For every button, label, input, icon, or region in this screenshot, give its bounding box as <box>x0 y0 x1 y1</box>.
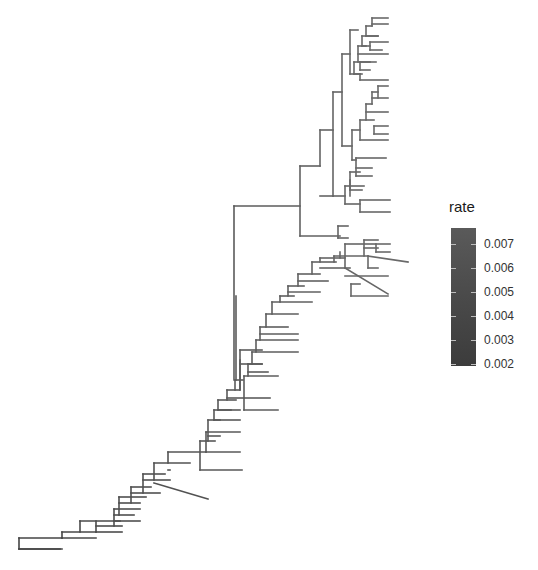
legend-tick-mark <box>451 340 456 341</box>
legend-tick-label: 0.005 <box>484 286 514 298</box>
legend-tick-mark <box>451 316 456 317</box>
legend-tick-mark <box>451 268 456 269</box>
legend-colorbar <box>451 228 476 366</box>
rate-legend: rate 0.0070.0060.0050.0040.0030.002 <box>449 198 538 360</box>
legend-tick-mark <box>471 364 476 365</box>
legend-tick-mark <box>471 244 476 245</box>
legend-tick-mark <box>451 244 456 245</box>
legend-tick-label: 0.002 <box>484 358 514 370</box>
legend-tick-label: 0.007 <box>484 238 514 250</box>
legend-tick-mark <box>471 292 476 293</box>
legend-tick-label: 0.003 <box>484 334 514 346</box>
legend-tick-label: 0.004 <box>484 310 514 322</box>
legend-tick-mark <box>471 316 476 317</box>
legend-tick-label: 0.006 <box>484 262 514 274</box>
tree-branch <box>368 256 408 262</box>
tree-branch <box>154 483 208 499</box>
legend-tick-mark <box>451 364 456 365</box>
legend-colorbar-area: 0.0070.0060.0050.0040.0030.002 <box>449 220 538 360</box>
legend-title: rate <box>449 198 538 220</box>
legend-tick-mark <box>451 292 456 293</box>
legend-tick-mark <box>471 340 476 341</box>
legend-tick-mark <box>471 268 476 269</box>
